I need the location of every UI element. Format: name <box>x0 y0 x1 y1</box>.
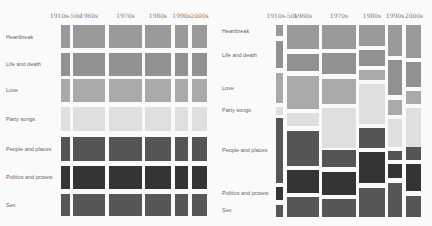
mosaic-cell <box>359 50 385 66</box>
mosaic-cell <box>145 107 171 131</box>
mosaic-cell <box>145 53 171 76</box>
mosaic-cell <box>406 164 421 191</box>
mosaic-cell <box>388 151 402 160</box>
mosaic-cell <box>145 194 171 216</box>
mosaic-cell <box>73 166 105 189</box>
mosaic-cell <box>192 53 207 76</box>
row-label-life-and-death: Life and death <box>222 52 257 58</box>
mosaic-cell <box>322 25 356 49</box>
mosaic-cell <box>276 118 283 183</box>
mosaic-cell <box>192 107 207 131</box>
row-label-love: Love <box>6 87 18 93</box>
mosaic-cell <box>359 152 385 183</box>
mosaic-cell <box>145 25 171 48</box>
row-label-people-and-places: People and places <box>6 146 51 152</box>
row-label-party-songs: Party songs <box>222 107 251 113</box>
mosaic-cell <box>61 53 70 76</box>
mosaic-cell <box>175 137 188 161</box>
column-label-1970s: 1970s <box>116 12 134 19</box>
mosaic-cell <box>109 137 142 161</box>
row-label-heartbreak: Heartbreak <box>222 28 249 34</box>
mosaic-cell <box>73 53 105 76</box>
mosaic-cell <box>276 73 283 103</box>
mosaic-cell <box>322 108 356 148</box>
column-label-1910s-50s: 1910s-50s <box>50 12 81 19</box>
mosaic-cell <box>73 107 105 131</box>
mosaic-cell <box>287 197 319 217</box>
mosaic-cell <box>276 187 283 200</box>
mosaic-cell <box>61 137 70 161</box>
mosaic-cell <box>175 53 188 76</box>
mosaic-cell <box>73 137 105 161</box>
mosaic-cell <box>287 76 319 109</box>
mosaic-cell <box>406 25 421 58</box>
mosaic-cell <box>192 79 207 102</box>
mosaic-cell <box>61 166 70 189</box>
mosaic-cell <box>61 194 70 216</box>
column-label-1960s: 1960s <box>294 12 312 19</box>
mosaic-cell <box>322 79 356 104</box>
row-label-love: Love <box>222 85 234 91</box>
row-label-politics-and-protest: Politics and protest <box>6 174 52 180</box>
mosaic-cell <box>175 194 188 216</box>
mosaic-cell <box>406 62 421 87</box>
mosaic-cell <box>109 25 142 48</box>
mosaic-cell <box>192 25 207 48</box>
mosaic-cell <box>73 79 105 102</box>
row-label-party-songs: Party songs <box>6 116 35 122</box>
mosaic-cell <box>287 170 319 193</box>
mosaic-cell <box>359 128 385 148</box>
mosaic-cell <box>73 194 105 216</box>
mosaic-cell <box>406 147 421 160</box>
row-label-life-and-death: Life and death <box>6 61 41 67</box>
mosaic-cell <box>359 25 385 46</box>
mosaic-cell <box>73 25 105 48</box>
mosaic-cell <box>175 166 188 189</box>
mosaic-cell <box>388 100 402 115</box>
mosaic-cell <box>175 107 188 131</box>
row-label-sex: Sex <box>6 202 15 208</box>
column-label-1980s: 1980s <box>363 12 381 19</box>
mosaic-cell <box>61 25 70 48</box>
column-label-1960s: 1960s <box>80 12 98 19</box>
mosaic-cell <box>175 79 188 102</box>
mosaic-cell <box>287 131 319 166</box>
mosaic-cell <box>276 41 283 68</box>
mosaic-cell <box>287 25 319 49</box>
mosaic-cell <box>388 25 402 56</box>
mosaic-cell <box>145 166 171 189</box>
mosaic-cell <box>276 107 283 115</box>
column-label-1980s: 1980s <box>149 12 167 19</box>
mosaic-cell <box>109 79 142 102</box>
mosaic-cell <box>287 113 319 126</box>
mosaic-cell <box>359 84 385 124</box>
mosaic-cell <box>145 79 171 102</box>
row-label-heartbreak: Heartbreak <box>6 34 33 40</box>
mosaic-cell <box>322 199 356 217</box>
row-label-sex: Sex <box>222 207 231 213</box>
mosaic-cell <box>61 79 70 102</box>
mosaic-cell <box>359 70 385 80</box>
column-label-2000s: 2000s <box>190 12 208 19</box>
mosaic-cell <box>406 108 421 147</box>
mosaic-cell <box>359 188 385 217</box>
mosaic-cell <box>192 166 207 189</box>
mosaic-cell <box>388 60 402 95</box>
mosaic-chart-uniform: 1910s-50s1960s1970s1980s1990s2000sHeartb… <box>0 0 216 226</box>
mosaic-cell <box>388 164 402 178</box>
column-label-1970s: 1970s <box>330 12 348 19</box>
mosaic-cell <box>388 119 402 147</box>
mosaic-cell <box>388 183 402 217</box>
mosaic-cell <box>406 196 421 217</box>
mosaic-cell <box>322 172 356 195</box>
mosaic-cell <box>406 91 421 104</box>
mosaic-cell <box>192 194 207 216</box>
row-label-politics-and-protest: Politics and protest <box>222 190 268 196</box>
mosaic-cell <box>109 107 142 131</box>
column-label-1990s: 1990s <box>386 12 404 19</box>
mosaic-cell <box>109 166 142 189</box>
mosaic-cell <box>287 54 319 71</box>
mosaic-cell <box>109 194 142 216</box>
mosaic-chart-proportional: 1910s-50s1960s1970s1980s1990s2000sHeartb… <box>216 0 432 226</box>
mosaic-cell <box>276 25 283 36</box>
